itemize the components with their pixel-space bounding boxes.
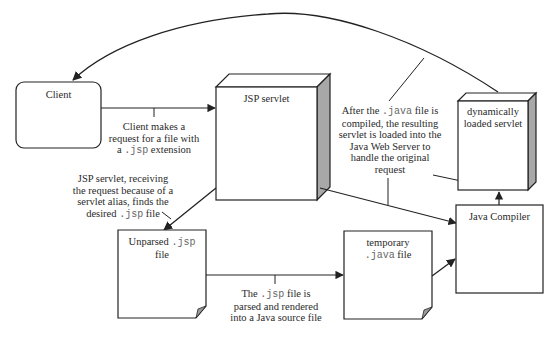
annotation-line: Client makes a <box>106 121 202 133</box>
annotation-client-request: Client makes a request for a file with a… <box>106 121 202 157</box>
annotation-line: servlet is loaded into the <box>338 129 442 141</box>
edge-temp-java-to-compiler <box>432 259 455 276</box>
annotation-text: extension <box>148 144 191 155</box>
annotation-text: desired <box>86 208 119 219</box>
annotation-text: file <box>143 208 160 219</box>
annotation-compiled-loaded: After the .java file is compiled, the re… <box>338 105 442 175</box>
client-label: Client <box>16 89 101 101</box>
annotation-text: file is <box>412 105 438 116</box>
temp-java-suffix: file <box>395 249 412 260</box>
dynamic-servlet-label: dynamically loaded servlet <box>458 106 528 129</box>
annotation-line: into a Java source file <box>226 312 326 324</box>
annotation-parse-render: The .jsp file is parsed and rendered int… <box>226 288 326 324</box>
annotation-line: request for a file with <box>106 133 202 145</box>
dynamic-servlet-label-line2: loaded servlet <box>458 118 528 130</box>
annotation-line: Java Web Server to <box>338 141 442 153</box>
callout-line-compiled <box>389 58 424 101</box>
annotation-line: parsed and rendered <box>226 301 326 313</box>
unparsed-prefix: Unparsed <box>129 236 172 247</box>
unparsed-jsp-label: Unparsed .jsp file <box>118 236 206 260</box>
annotation-code: .java <box>382 106 412 117</box>
annotation-text: The <box>241 288 260 299</box>
temp-java-label: temporary .java file <box>344 237 432 261</box>
unparsed-line2: file <box>118 249 206 261</box>
dynamic-servlet-label-line1: dynamically <box>458 106 528 118</box>
temp-java-code: .java <box>365 250 395 261</box>
annotation-code: .jsp <box>119 209 143 220</box>
annotation-text: file is <box>284 288 310 299</box>
temp-java-line1: temporary <box>344 237 432 249</box>
annotation-servlet-finds: JSP servlet, receiving the request becau… <box>70 173 176 220</box>
java-compiler-label: Java Compiler <box>456 211 543 223</box>
annotation-line: the request because of a <box>70 185 176 197</box>
jsp-servlet-label: JSP servlet <box>216 93 317 105</box>
annotation-code: .jsp <box>260 289 284 300</box>
annotation-code: .jsp <box>124 145 148 156</box>
unparsed-code: .jsp <box>171 237 195 248</box>
annotation-line: request <box>338 164 442 176</box>
annotation-line: servlet alias, finds the <box>70 196 176 208</box>
annotation-line: JSP servlet, receiving <box>70 173 176 185</box>
annotation-line: compiled, the resulting <box>338 118 442 130</box>
annotation-line: handle the original <box>338 152 442 164</box>
annotation-text: After the <box>342 105 382 116</box>
